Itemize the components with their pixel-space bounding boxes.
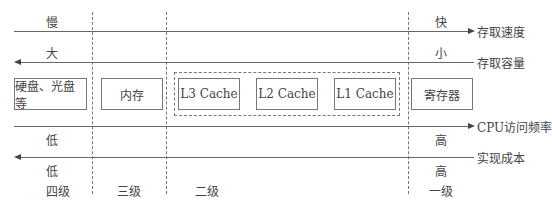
capacity-large-label: 大 [46, 44, 58, 61]
cost-high-label: 高 [435, 162, 447, 179]
arrow-left-icon [14, 59, 21, 65]
capacity-axis-label: 存取容量 [477, 54, 525, 71]
level-divider-4-3 [92, 12, 93, 194]
frequency-axis-label: CPU访问频率 [477, 118, 552, 135]
speed-axis-label: 存取速度 [477, 23, 525, 40]
cost-axis-label: 实现成本 [477, 149, 525, 166]
storage-label: L2 Cache [258, 87, 315, 101]
storage-label: 硬盘、光盘等 [15, 77, 86, 111]
level-1-label: 一级 [429, 182, 453, 199]
storage-label: 内存 [120, 86, 144, 103]
level-4-label: 四级 [46, 182, 70, 199]
arrow-right-icon [468, 28, 475, 34]
arrow-right-icon [468, 123, 475, 129]
storage-label: 寄存器 [424, 86, 460, 103]
speed-slow-label: 慢 [46, 13, 58, 30]
cost-low-label: 低 [46, 162, 58, 179]
storage-register: 寄存器 [411, 78, 473, 110]
storage-label: L1 Cache [336, 87, 393, 101]
storage-label: L3 Cache [180, 87, 237, 101]
level-2-label: 二级 [195, 182, 219, 199]
storage-memory: 内存 [101, 78, 163, 110]
storage-disk: 硬盘、光盘等 [14, 78, 87, 110]
frequency-low-label: 低 [46, 131, 58, 148]
frequency-axis-line [14, 126, 470, 127]
storage-l3-cache: L3 Cache [178, 78, 240, 110]
speed-axis-line [14, 31, 470, 32]
storage-l2-cache: L2 Cache [256, 78, 318, 110]
storage-l1-cache: L1 Cache [334, 78, 396, 110]
capacity-axis-line [18, 62, 474, 63]
frequency-high-label: 高 [435, 131, 447, 148]
cost-axis-line [18, 157, 474, 158]
level-divider-3-2 [166, 12, 167, 194]
capacity-small-label: 小 [435, 44, 447, 61]
speed-fast-label: 快 [435, 13, 447, 30]
level-divider-2-1 [408, 12, 409, 194]
arrow-left-icon [14, 154, 21, 160]
level-3-label: 三级 [117, 182, 141, 199]
